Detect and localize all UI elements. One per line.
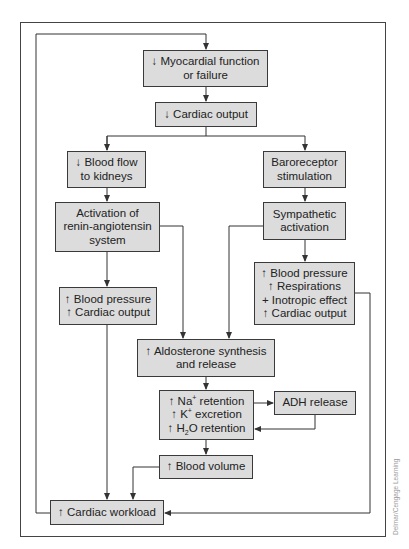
node-text: ↑ Cardiac output bbox=[263, 307, 347, 321]
node-text: or failure bbox=[183, 69, 228, 83]
node-text: ↑ H2O retention bbox=[167, 422, 245, 436]
node-text: ↑ Cardiac output bbox=[66, 306, 150, 320]
node-text: ↑ K+ excretion bbox=[171, 408, 242, 422]
node-text: ↑ Blood pressure bbox=[65, 293, 151, 307]
node-text: activation bbox=[280, 221, 329, 235]
publisher-watermark: Delmar/Cengage Learning bbox=[392, 459, 399, 535]
node-aldosterone: ↑ Aldosterone synthesis and release bbox=[137, 339, 275, 377]
node-myocardial-failure: ↓ Myocardial function or failure bbox=[143, 50, 268, 87]
node-text: ↑ Respirations bbox=[268, 280, 341, 294]
node-text: ↓ Blood flow bbox=[75, 156, 137, 170]
node-text: Baroreceptor bbox=[271, 156, 337, 170]
node-blood-volume: ↑ Blood volume bbox=[159, 455, 253, 479]
node-text: ↓ Myocardial function bbox=[151, 55, 259, 69]
node-text: renin-angiotensin bbox=[63, 220, 151, 234]
node-text: ↓ Cardiac output bbox=[164, 108, 248, 122]
node-text: ADH release bbox=[282, 396, 347, 410]
node-text: Activation of bbox=[76, 207, 139, 221]
node-cardiac-output-decrease: ↓ Cardiac output bbox=[155, 102, 257, 127]
node-adh-release: ADH release bbox=[274, 391, 356, 415]
node-text: and release bbox=[176, 358, 236, 372]
node-sympathetic-activation: Sympathetic activation bbox=[263, 202, 346, 240]
node-electrolyte-retention: ↑ Na+ retention ↑ K+ excretion ↑ H2O ret… bbox=[159, 390, 254, 440]
node-text: ↑ Blood volume bbox=[167, 460, 246, 474]
node-sympathetic-effects: ↑ Blood pressure ↑ Respirations + Inotro… bbox=[254, 262, 355, 325]
node-text: ↑ Blood pressure bbox=[261, 267, 347, 281]
node-text: system bbox=[89, 234, 125, 248]
node-text: ↑ Cardiac workload bbox=[58, 506, 156, 520]
node-text: ↑ Na+ retention bbox=[169, 395, 245, 409]
node-baroreceptor-stimulation: Baroreceptor stimulation bbox=[263, 151, 346, 188]
node-renin-angiotensin: Activation of renin-angiotensin system bbox=[55, 202, 160, 252]
node-text: + Inotropic effect bbox=[262, 294, 347, 308]
node-blood-flow-kidneys: ↓ Blood flow to kidneys bbox=[67, 151, 146, 188]
node-cardiac-workload: ↑ Cardiac workload bbox=[50, 500, 164, 525]
node-text: to kidneys bbox=[81, 170, 133, 184]
node-bp-cardiac-output-left: ↑ Blood pressure ↑ Cardiac output bbox=[59, 287, 157, 325]
node-text: Sympathetic bbox=[273, 208, 336, 222]
node-text: ↑ Aldosterone synthesis bbox=[146, 345, 267, 359]
node-text: stimulation bbox=[277, 170, 332, 184]
